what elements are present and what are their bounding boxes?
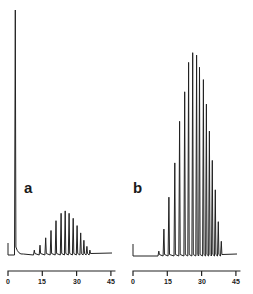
tick-a-15: 15 (38, 278, 46, 285)
tick-b-30: 30 (198, 278, 206, 285)
tick-b-15: 15 (164, 278, 172, 285)
time-axis-b (133, 271, 240, 276)
chromatogram-b (133, 53, 237, 256)
panel-label-a: a (24, 179, 32, 196)
chromatogram-figure (0, 0, 253, 294)
trace-b (133, 53, 237, 256)
tick-a-45: 45 (107, 278, 115, 285)
tick-b-0: 0 (131, 278, 135, 285)
panel-label-b: b (133, 179, 142, 196)
time-axis-a (8, 271, 115, 276)
tick-b-45: 45 (232, 278, 240, 285)
trace-a (8, 10, 112, 255)
tick-a-30: 30 (73, 278, 81, 285)
chromatogram-a (8, 10, 112, 255)
tick-a-0: 0 (6, 278, 10, 285)
